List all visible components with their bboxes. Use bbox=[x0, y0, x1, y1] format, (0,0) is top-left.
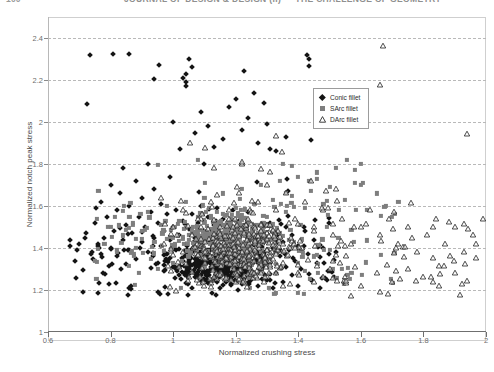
data-point bbox=[145, 249, 151, 255]
legend-label-conic: Conic fillet bbox=[330, 93, 360, 102]
data-point bbox=[306, 63, 312, 69]
data-point bbox=[360, 273, 364, 277]
data-point bbox=[158, 195, 164, 201]
data-point bbox=[108, 225, 112, 229]
data-point bbox=[130, 230, 136, 236]
data-point bbox=[346, 266, 350, 270]
data-point bbox=[195, 252, 201, 258]
data-point bbox=[289, 272, 295, 278]
data-point bbox=[155, 267, 159, 271]
data-point bbox=[106, 263, 112, 269]
y-axis-tick bbox=[44, 80, 48, 81]
data-point bbox=[74, 275, 80, 281]
data-point bbox=[265, 214, 269, 218]
data-point bbox=[303, 269, 307, 273]
y-axis-tick bbox=[44, 38, 48, 39]
data-point bbox=[167, 237, 173, 243]
data-point bbox=[245, 115, 251, 121]
gridline-y bbox=[48, 80, 486, 81]
data-point bbox=[278, 221, 284, 227]
data-point bbox=[233, 96, 239, 102]
data-point bbox=[200, 279, 206, 285]
data-point bbox=[185, 253, 191, 259]
data-point bbox=[189, 65, 195, 71]
data-point bbox=[353, 168, 357, 172]
data-point bbox=[274, 263, 280, 269]
data-point bbox=[374, 191, 378, 195]
data-point bbox=[320, 274, 326, 280]
data-point bbox=[187, 238, 191, 242]
data-point bbox=[272, 280, 278, 286]
data-point bbox=[99, 254, 105, 260]
data-point bbox=[170, 224, 176, 230]
data-point bbox=[250, 210, 256, 216]
gridline-y bbox=[48, 122, 486, 123]
data-point bbox=[315, 177, 319, 181]
data-point bbox=[340, 267, 344, 271]
data-point bbox=[125, 293, 131, 299]
data-point bbox=[119, 241, 123, 245]
data-point bbox=[193, 236, 199, 242]
data-point bbox=[177, 146, 183, 152]
data-point bbox=[110, 52, 116, 58]
data-point bbox=[343, 252, 349, 258]
data-point bbox=[202, 196, 206, 200]
data-point bbox=[251, 269, 257, 275]
data-point bbox=[177, 219, 181, 223]
data-point bbox=[89, 251, 95, 257]
data-point bbox=[164, 212, 170, 218]
data-point bbox=[402, 244, 408, 250]
data-point bbox=[136, 214, 142, 220]
data-point bbox=[185, 254, 191, 260]
data-point bbox=[115, 250, 121, 256]
data-point bbox=[345, 158, 349, 162]
data-point bbox=[146, 210, 150, 214]
data-point bbox=[150, 254, 156, 260]
data-point bbox=[161, 240, 167, 246]
data-point bbox=[240, 213, 244, 217]
data-point bbox=[117, 191, 123, 197]
data-point bbox=[258, 166, 264, 172]
data-point bbox=[127, 263, 131, 267]
data-point bbox=[115, 250, 119, 254]
data-point bbox=[187, 254, 191, 258]
legend-item-conic: Conic fillet bbox=[318, 92, 364, 103]
data-point bbox=[213, 292, 219, 298]
data-point bbox=[261, 279, 267, 285]
data-point bbox=[277, 234, 283, 240]
data-point bbox=[285, 176, 291, 182]
data-point bbox=[220, 246, 226, 252]
data-point bbox=[133, 237, 137, 241]
data-point bbox=[239, 128, 245, 134]
data-point bbox=[349, 271, 353, 275]
data-point bbox=[396, 200, 400, 204]
data-point bbox=[230, 235, 236, 241]
data-point bbox=[437, 271, 443, 277]
data-point bbox=[279, 149, 285, 155]
data-point bbox=[185, 254, 189, 258]
data-point bbox=[211, 231, 217, 237]
data-point bbox=[98, 199, 104, 205]
data-point bbox=[132, 252, 136, 256]
data-point bbox=[311, 228, 317, 234]
data-point bbox=[139, 229, 145, 235]
data-point bbox=[244, 284, 250, 290]
data-point bbox=[264, 247, 270, 253]
page-number: 100 bbox=[6, 0, 21, 4]
legend-label-darc: DArc fillet bbox=[330, 115, 358, 124]
data-point bbox=[227, 261, 233, 267]
data-point bbox=[67, 237, 73, 243]
data-point bbox=[208, 284, 214, 290]
data-point bbox=[152, 251, 156, 255]
data-point bbox=[391, 250, 397, 256]
data-point bbox=[307, 56, 313, 62]
data-point bbox=[267, 146, 273, 152]
data-point bbox=[280, 282, 286, 288]
data-point bbox=[128, 201, 132, 205]
x-axis-tick-label: 1.2 bbox=[230, 336, 240, 345]
data-point bbox=[167, 174, 173, 180]
data-point bbox=[131, 223, 135, 227]
data-point bbox=[286, 220, 292, 226]
data-point bbox=[241, 256, 247, 262]
data-point bbox=[273, 132, 279, 138]
